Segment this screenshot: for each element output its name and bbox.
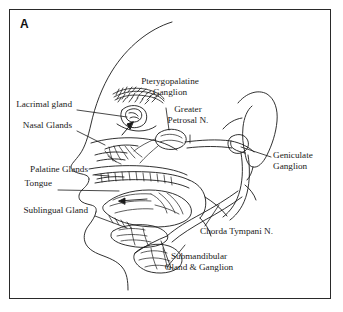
- label-submandibular-line2: Gland & Ganglion: [165, 262, 233, 272]
- label-submandibular-line1: Submandibular: [171, 251, 227, 261]
- leader-lines: [58, 108, 271, 268]
- label-greater-petrosal-line1: Greater: [174, 104, 202, 114]
- label-lacrimal-gland: Lacrimal gland: [6, 99, 72, 110]
- anatomical-figure-panel: A: [0, 0, 343, 312]
- leader-palatine: [95, 175, 109, 176]
- label-pterygopalatine-line1: Pterygopalatine: [141, 76, 199, 86]
- ear-lobe: [247, 167, 253, 180]
- label-palatine-glands: Palatine Glands: [10, 164, 88, 175]
- lacrimal-gland-detail-2: [130, 117, 139, 119]
- ear-outline: [238, 92, 277, 167]
- label-pterygopalatine-line2: Ganglion: [153, 87, 187, 97]
- leader-tongue: [58, 190, 119, 191]
- leader-lacrimal: [77, 110, 127, 117]
- lacrimal-gland-shape: [126, 109, 142, 122]
- label-tongue: Tongue: [10, 178, 52, 189]
- sublingual-gland-texture: [117, 227, 151, 245]
- tongue-fibers: [110, 193, 183, 214]
- lacrimal-arrow: [122, 122, 133, 135]
- temporal-bone-edge: [223, 118, 242, 129]
- palate-hatching: [101, 172, 172, 185]
- label-pterygopalatine-ganglion: Pterygopalatine Ganglion: [127, 76, 213, 97]
- label-submandibular-gland-ganglion: Submandibular Gland & Ganglion: [144, 251, 254, 272]
- label-greater-petrosal-nerve: Greater Petrosal N.: [158, 104, 218, 125]
- lacrimal-gland-detail-1: [129, 113, 138, 116]
- ear-inner-fold: [243, 106, 252, 153]
- label-chorda-tympani-nerve: Chorda Tympani N.: [200, 226, 296, 237]
- forehead-outline: [71, 22, 172, 179]
- label-geniculate-line1: Geniculate: [273, 150, 313, 160]
- facial-nerve-descending-2: [230, 155, 249, 220]
- greater-petrosal-nerve-2: [187, 147, 232, 149]
- label-sublingual-gland: Sublingual Gland: [6, 205, 88, 216]
- label-nasal-glands: Nasal Glands: [6, 120, 72, 131]
- label-geniculate-line2: Ganglion: [273, 161, 307, 171]
- label-greater-petrosal-line2: Petrosal N.: [168, 115, 209, 125]
- label-geniculate-ganglion: Geniculate Ganglion: [273, 150, 339, 171]
- mandible-ramus: [205, 197, 227, 216]
- stylomastoid-detail: [245, 185, 256, 200]
- lower-lip-chin-outline: [84, 212, 128, 290]
- nasal-septum-branch: [105, 145, 138, 149]
